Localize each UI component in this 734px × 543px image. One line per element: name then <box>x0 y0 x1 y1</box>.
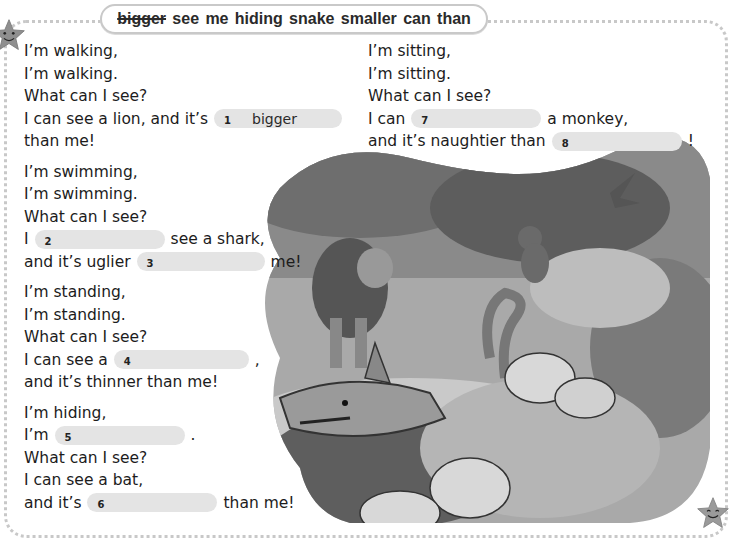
poem-line: and it’s uglier 3 me! <box>24 251 348 274</box>
answer-gap-4[interactable]: 4 <box>114 350 249 369</box>
poem-left-column: I’m walking, I’m walking. What can I see… <box>24 40 348 514</box>
poem-line: I’m swimming, <box>24 161 348 184</box>
line-text: , <box>255 349 260 372</box>
line-text: and it’s uglier <box>24 251 131 274</box>
line-text: I can see a lion, and it’s <box>24 108 208 131</box>
poem-line: than me! <box>24 130 348 153</box>
stanza-hiding: I’m hiding, I’m 5 . What can I see? I ca… <box>24 402 348 515</box>
line-text: I can <box>368 108 405 131</box>
poem-line: What can I see? <box>24 326 348 349</box>
poem-line: What can I see? <box>368 85 694 108</box>
gap-number: 2 <box>45 231 52 254</box>
poem-line: I’m walking. <box>24 63 348 86</box>
poem-line: What can I see? <box>24 206 348 229</box>
line-text: than me! <box>223 492 294 515</box>
poem-line: and it’s naughtier than 8 ! <box>368 130 694 153</box>
stanza-walking: I’m walking, I’m walking. What can I see… <box>24 40 348 153</box>
line-text: and it’s naughtier than <box>368 130 546 153</box>
poem-line: and it’s thinner than me! <box>24 371 348 394</box>
line-text: ! <box>688 130 694 153</box>
line-text: a monkey, <box>547 108 628 131</box>
poem-line: I’m standing, <box>24 281 348 304</box>
answer-gap-3[interactable]: 3 <box>137 252 265 271</box>
word-bank-word: smaller <box>341 10 397 28</box>
poem-line: I 2 see a shark, <box>24 228 348 251</box>
poem-line: I can see a 4 , <box>24 349 348 372</box>
poem-line: I’m swimming. <box>24 183 348 206</box>
gap-number: 7 <box>421 110 428 133</box>
poem-line: I can see a lion, and it’s 1 bigger <box>24 108 348 131</box>
word-bank-word: snake <box>289 10 334 28</box>
gap-number: 4 <box>124 351 131 374</box>
poem-line: What can I see? <box>24 447 348 470</box>
line-text: me! <box>271 251 302 274</box>
gap-number: 1 <box>224 110 231 133</box>
gap-number: 8 <box>562 133 569 156</box>
gap-number: 3 <box>147 253 154 276</box>
line-text: see a shark, <box>171 228 265 251</box>
poem-right-column: I’m sitting, I’m sitting. What can I see… <box>368 40 694 153</box>
answer-gap-7[interactable]: 7 <box>411 109 541 128</box>
poem-line: I’m 5 . <box>24 424 348 447</box>
word-bank-word: see <box>172 10 199 28</box>
poem-line: I’m walking, <box>24 40 348 63</box>
line-text: I’m <box>24 424 49 447</box>
poem-line: I’m sitting. <box>368 63 694 86</box>
gap-number: 6 <box>97 494 104 517</box>
word-bank-word: bigger <box>117 10 166 28</box>
gap-answer: bigger <box>252 108 297 131</box>
poem-line: I’m hiding, <box>24 402 348 425</box>
star-mascot-icon <box>696 496 730 530</box>
word-bank-word: hiding <box>235 10 283 28</box>
poem-line: I can see a bat, <box>24 469 348 492</box>
line-text: and it’s <box>24 492 81 515</box>
stanza-sitting: I’m sitting, I’m sitting. What can I see… <box>368 40 694 153</box>
poem-line: I can 7 a monkey, <box>368 108 694 131</box>
answer-gap-2[interactable]: 2 <box>35 230 165 249</box>
word-bank: bigger see me hiding snake smaller can t… <box>100 4 488 34</box>
answer-gap-1[interactable]: 1 bigger <box>214 109 342 128</box>
stanza-swimming: I’m swimming, I’m swimming. What can I s… <box>24 161 348 274</box>
answer-gap-6[interactable]: 6 <box>87 493 217 512</box>
poem-line: and it’s 6 than me! <box>24 492 348 515</box>
line-text: . <box>191 424 196 447</box>
line-text: I can see a <box>24 349 108 372</box>
answer-gap-5[interactable]: 5 <box>55 426 185 445</box>
poem-line: I’m sitting, <box>368 40 694 63</box>
word-bank-word: can <box>403 10 431 28</box>
word-bank-word: than <box>437 10 471 28</box>
gap-number: 5 <box>65 427 72 450</box>
word-bank-word: me <box>205 10 228 28</box>
stanza-standing: I’m standing, I’m standing. What can I s… <box>24 281 348 394</box>
poem-line: What can I see? <box>24 85 348 108</box>
answer-gap-8[interactable]: 8 <box>552 132 682 151</box>
line-text: I <box>24 228 29 251</box>
poem-line: I’m standing. <box>24 304 348 327</box>
